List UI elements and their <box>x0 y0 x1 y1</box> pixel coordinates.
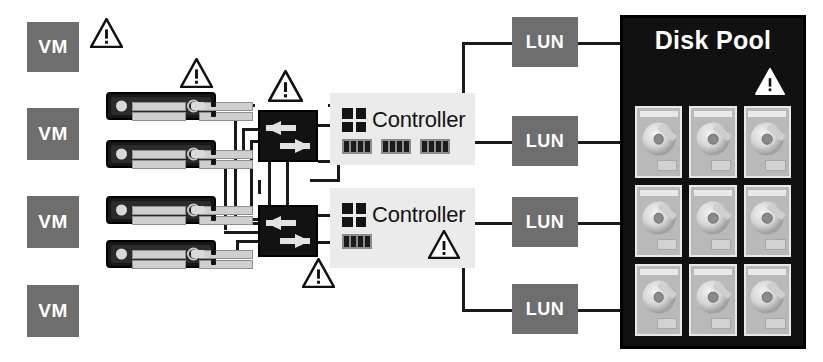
wire-srv4-sw2 <box>236 240 258 243</box>
disk-drive[interactable] <box>744 106 791 178</box>
controller-label: Controller <box>372 107 465 133</box>
wire-ctrl2-lun4-h <box>462 309 512 312</box>
controller-ports <box>342 234 372 249</box>
disk-drive[interactable] <box>635 106 682 178</box>
server-appliance-3[interactable] <box>106 196 216 224</box>
port-group <box>342 234 372 249</box>
wire-lun1-pool <box>578 42 620 45</box>
warning-vm-1-icon <box>90 18 123 48</box>
lun-label: LUN <box>526 32 565 53</box>
port-icon <box>191 206 205 214</box>
vm-label: VM <box>38 123 68 145</box>
disk-drive[interactable] <box>635 185 682 257</box>
disk-drive[interactable] <box>635 264 682 336</box>
arrow-left-icon <box>266 121 310 134</box>
fabric-switch-1[interactable] <box>258 110 318 162</box>
port-icon <box>191 102 205 110</box>
vm-block-1[interactable]: VM <box>27 22 79 72</box>
vm-block-4[interactable]: VM <box>27 285 79 337</box>
lun-label: LUN <box>526 131 565 152</box>
disk-drive[interactable] <box>744 185 791 257</box>
lun-label: LUN <box>526 299 565 320</box>
warning-server-top-icon <box>180 58 213 88</box>
wire-srv2-sw2 <box>224 231 258 234</box>
port-group <box>381 139 411 154</box>
storage-topology-diagram: VM VM VM VM <box>0 0 823 362</box>
vm-label: VM <box>38 300 68 322</box>
fabric-switch-2[interactable] <box>258 205 318 257</box>
controller-ports <box>342 139 450 154</box>
controller-grid-icon <box>342 203 366 227</box>
wire-srv2-sw1 <box>242 128 258 131</box>
arrow-left-icon <box>266 216 310 229</box>
lun-label: LUN <box>526 212 565 233</box>
port-icon <box>191 150 205 158</box>
controller-grid-icon <box>342 108 366 132</box>
power-indicator-icon <box>116 149 127 160</box>
controller-panel-2[interactable]: Controller <box>330 188 475 268</box>
power-indicator-icon <box>116 205 127 216</box>
disk-pool[interactable]: Disk Pool <box>620 15 806 349</box>
power-indicator-icon <box>116 249 127 260</box>
server-appliance-1[interactable] <box>106 92 216 120</box>
controller-label: Controller <box>372 202 465 228</box>
vm-block-3[interactable]: VM <box>27 196 79 248</box>
disk-grid <box>635 106 791 336</box>
warning-controller-2-icon <box>428 230 460 259</box>
wire-ctrl1-lun2 <box>470 141 512 144</box>
controller-panel-1[interactable]: Controller <box>330 93 475 165</box>
port-group <box>342 139 372 154</box>
wire-ctrl1-lun1-h <box>462 42 512 45</box>
vm-label: VM <box>38 36 68 58</box>
wire-sw1-ctrl-c3 <box>310 179 340 182</box>
wire-srv3-sw1 <box>250 140 258 143</box>
wire-lun3-pool <box>578 222 620 225</box>
arrow-right-icon <box>266 139 310 152</box>
arrow-right-icon <box>266 234 310 247</box>
disk-drive[interactable] <box>744 264 791 336</box>
power-indicator-icon <box>116 101 127 112</box>
vm-block-2[interactable]: VM <box>27 108 79 160</box>
server-appliance-4[interactable] <box>106 240 216 268</box>
lun-block-3[interactable]: LUN <box>512 197 578 247</box>
server-appliance-2[interactable] <box>106 140 216 168</box>
disk-drive[interactable] <box>689 106 736 178</box>
wire-ctrl2-lun3 <box>470 222 512 225</box>
lun-block-4[interactable]: LUN <box>512 284 578 334</box>
warning-switch-1-icon <box>268 70 303 102</box>
wire-lun4-pool <box>578 309 620 312</box>
wire-mesh-v1 <box>258 180 261 194</box>
port-icon <box>191 250 205 258</box>
disk-drive[interactable] <box>689 185 736 257</box>
wire-lun2-pool <box>578 141 620 144</box>
vm-label: VM <box>38 211 68 233</box>
warning-switch-2-icon <box>302 258 335 288</box>
lun-block-1[interactable]: LUN <box>512 17 578 67</box>
warning-disk-pool-icon <box>755 68 785 95</box>
disk-pool-title: Disk Pool <box>623 26 803 55</box>
disk-drive[interactable] <box>689 264 736 336</box>
lun-block-2[interactable]: LUN <box>512 116 578 166</box>
port-group <box>420 139 450 154</box>
